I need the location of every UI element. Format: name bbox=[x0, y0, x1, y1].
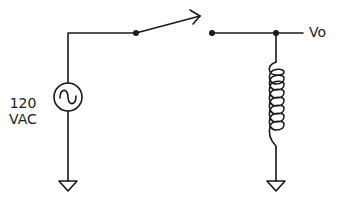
ac-source-icon bbox=[54, 83, 82, 111]
wire-source-to-switch bbox=[68, 33, 136, 83]
inductor-coil-icon bbox=[269, 62, 284, 148]
schematic-svg bbox=[0, 0, 341, 201]
source-voltage-value: 120 bbox=[4, 95, 42, 111]
output-voltage-label: Vo bbox=[309, 24, 326, 40]
source-voltage-type: VAC bbox=[4, 111, 42, 127]
ground-right-icon bbox=[267, 181, 285, 191]
switch-arm-icon bbox=[136, 10, 200, 33]
circuit-diagram: 120 VAC Vo bbox=[0, 0, 341, 201]
ground-left-icon bbox=[59, 181, 77, 191]
source-voltage-label: 120 VAC bbox=[4, 95, 42, 127]
